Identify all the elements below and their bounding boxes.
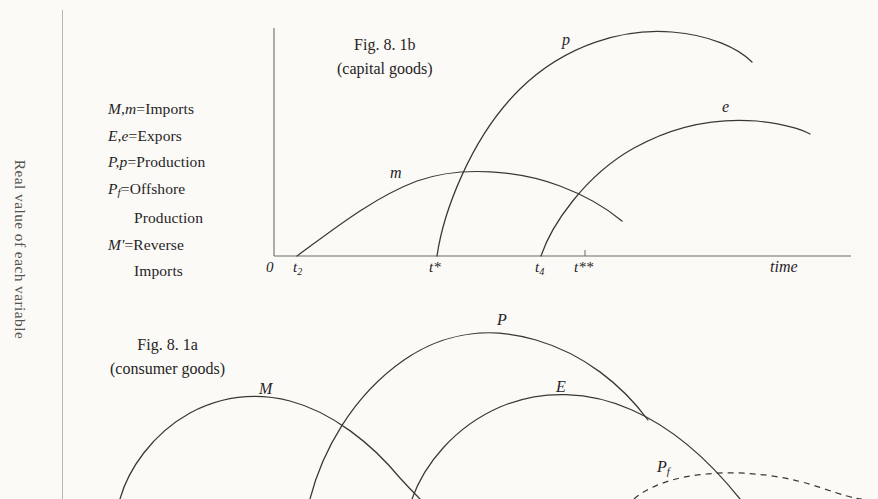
fig-b-curve-m (297, 172, 622, 256)
fig-a-label-P: P (497, 311, 507, 329)
fig-b-title-line2: (capital goods) (337, 57, 433, 81)
fig-b-x-axis-label: time (770, 258, 798, 276)
fig-b-label-m: m (390, 164, 402, 182)
figure-page: Real value of each variable M,m=Imports … (0, 0, 878, 499)
fig-b-curve-e (541, 120, 810, 256)
fig-b-tick-tss-star: ** (578, 259, 593, 275)
fig-b-tick-label-t2: t2 (293, 259, 302, 277)
fig-a-label-E: E (556, 378, 566, 396)
fig-b-tick-label-tstar: t* (429, 259, 441, 276)
fig-a-label-Pf: Pf (657, 458, 670, 477)
fig-a-label-Pf-sub: f (667, 465, 670, 477)
fig-b-tick-label-tstarstar: t** (574, 259, 593, 276)
fig-a-title: Fig. 8. 1a (consumer goods) (110, 333, 225, 381)
fig-b-tick-tstar-star: * (433, 259, 441, 275)
fig-a-curve-E (412, 395, 740, 499)
fig-a-label-Pf-base: P (657, 458, 667, 475)
fig-b-origin-label: 0 (266, 259, 274, 276)
fig-a-curve-P (310, 333, 648, 499)
fig-b-tick-t2-sub: 2 (297, 266, 302, 277)
fig-b-tick-t4-sub: 4 (539, 266, 544, 277)
fig-b-label-e: e (722, 98, 729, 116)
fig-a-title-line1: Fig. 8. 1a (110, 333, 225, 357)
fig-a-curve-M (120, 397, 420, 499)
figure-canvas (0, 0, 878, 499)
fig-b-title: Fig. 8. 1b (capital goods) (337, 33, 433, 81)
fig-b-curve-p (437, 31, 752, 256)
fig-a-title-line2: (consumer goods) (110, 357, 225, 381)
fig-b-title-line1: Fig. 8. 1b (337, 33, 433, 57)
fig-b-tick-label-t4: t4 (535, 259, 544, 277)
fig-a-label-M: M (259, 380, 272, 398)
fig-b-label-p: p (562, 31, 570, 49)
